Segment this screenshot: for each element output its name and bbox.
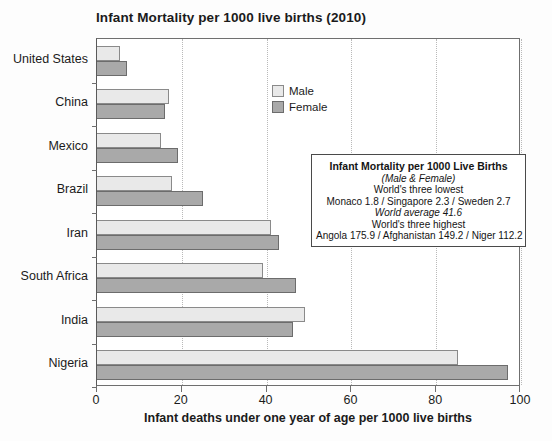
bar-female	[97, 104, 165, 119]
bar-male	[97, 350, 458, 365]
annotation-heading: Infant Mortality per 1000 Live Births	[316, 160, 521, 173]
bar-male	[97, 263, 263, 278]
y-axis-tick	[92, 83, 97, 84]
x-axis-title: Infant deaths under one year of age per …	[96, 411, 520, 425]
bar-female	[97, 191, 203, 206]
bar-female	[97, 61, 127, 76]
chart-title: Infant Mortality per 1000 live births (2…	[96, 10, 520, 25]
x-axis-tick	[519, 386, 520, 392]
annotation-highest-header: World's three highest	[316, 219, 521, 230]
y-axis-tick	[92, 170, 97, 171]
x-axis-label-80: 80	[428, 393, 442, 407]
x-axis-label-20: 20	[174, 393, 188, 407]
bar-male	[97, 220, 271, 235]
legend-label: Female	[289, 101, 327, 113]
bar-female	[97, 278, 296, 293]
legend-item-female: Female	[272, 99, 327, 114]
x-axis-tick	[181, 386, 182, 392]
x-axis-label-100: 100	[510, 393, 531, 407]
legend-swatch-female	[272, 101, 284, 113]
annotation-subheading: (Male & Female)	[316, 173, 521, 184]
y-axis-tick	[92, 257, 97, 258]
y-axis-label-china: China	[0, 95, 88, 109]
y-axis-label-united-states: United States	[0, 52, 88, 66]
y-axis-tick	[92, 300, 97, 301]
bar-female	[97, 148, 178, 163]
legend-swatch-male	[272, 85, 284, 97]
annotation-box: Infant Mortality per 1000 Live Births (M…	[311, 154, 526, 247]
bar-male	[97, 46, 120, 61]
x-axis-tick	[350, 386, 351, 392]
x-axis-label-60: 60	[343, 393, 357, 407]
legend: MaleFemale	[269, 81, 330, 117]
annotation-lowest-header: World's three lowest	[316, 184, 521, 195]
bar-male	[97, 89, 169, 104]
legend-label: Male	[289, 85, 314, 97]
bar-female	[97, 235, 279, 250]
legend-item-male: Male	[272, 83, 327, 98]
x-axis-tick	[96, 386, 97, 392]
bar-female	[97, 365, 508, 380]
bar-male	[97, 307, 305, 322]
bar-male	[97, 176, 172, 191]
annotation-world-average: World average 41.6	[316, 207, 521, 218]
bar-male	[97, 133, 161, 148]
y-axis-label-nigeria: Nigeria	[0, 356, 88, 370]
y-axis-tick	[92, 213, 97, 214]
bar-female	[97, 322, 293, 337]
y-axis-label-mexico: Mexico	[0, 139, 88, 153]
x-axis-tick	[435, 386, 436, 392]
y-axis-label-south-africa: South Africa	[0, 269, 88, 283]
y-axis-label-iran: Iran	[0, 226, 88, 240]
x-axis-label-0: 0	[93, 393, 100, 407]
y-axis-label-brazil: Brazil	[0, 182, 88, 196]
y-axis-tick	[92, 126, 97, 127]
y-axis-labels: United StatesChinaMexicoBrazilIranSouth …	[0, 38, 92, 386]
x-axis-labels: 020406080100	[96, 393, 520, 411]
x-axis-label-40: 40	[259, 393, 273, 407]
y-axis-tick	[92, 344, 97, 345]
x-axis-tick	[266, 386, 267, 392]
annotation-highest-values: Angola 175.9 / Afghanistan 149.2 / Niger…	[316, 230, 521, 241]
y-axis-label-india: India	[0, 313, 88, 327]
plot-area: MaleFemale Infant Mortality per 1000 Liv…	[96, 38, 520, 386]
chart-page: Infant Mortality per 1000 live births (2…	[0, 0, 552, 441]
annotation-lowest-values: Monaco 1.8 / Singapore 2.3 / Sweden 2.7	[316, 196, 521, 207]
